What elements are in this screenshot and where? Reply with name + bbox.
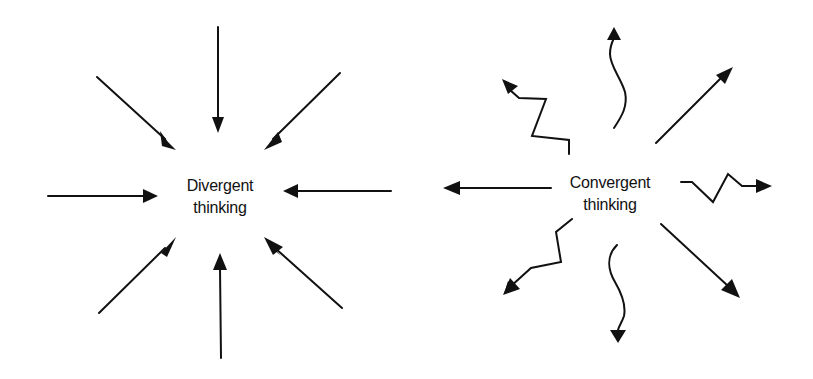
arrow-icon-top-left — [97, 77, 176, 150]
convergent-label-line2: thinking — [548, 194, 672, 216]
wavy-arrow-icon-bottom — [609, 245, 626, 343]
zigzag-arrow-icon-right — [681, 174, 772, 202]
divergent-label-line2: thinking — [160, 197, 280, 219]
arrow-icon-bottom — [213, 253, 227, 358]
wavy-arrow-icon-top — [607, 27, 626, 128]
arrow-icon-bottom-right — [661, 224, 740, 298]
zigzag-arrow-icon-top-left — [502, 79, 569, 154]
arrow-icon-left — [443, 181, 551, 195]
arrow-icon-bottom-right — [264, 237, 342, 308]
divergent-label-line1: Divergent — [160, 175, 280, 197]
divergent-thinking-label: Divergent thinking — [160, 175, 280, 219]
arrow-icon-left — [48, 189, 158, 203]
convergent-thinking-label: Convergent thinking — [548, 172, 672, 216]
convergent-label-line1: Convergent — [548, 172, 672, 194]
thinking-diagrams-canvas — [0, 0, 813, 379]
arrow-icon-top-right — [656, 67, 733, 143]
arrow-icon-right — [283, 184, 391, 198]
arrow-icon-top — [212, 27, 224, 133]
arrow-icon-bottom-left — [99, 237, 176, 313]
arrow-icon-top-right — [264, 73, 340, 150]
zigzag-arrow-icon-bottom-left — [503, 219, 572, 295]
